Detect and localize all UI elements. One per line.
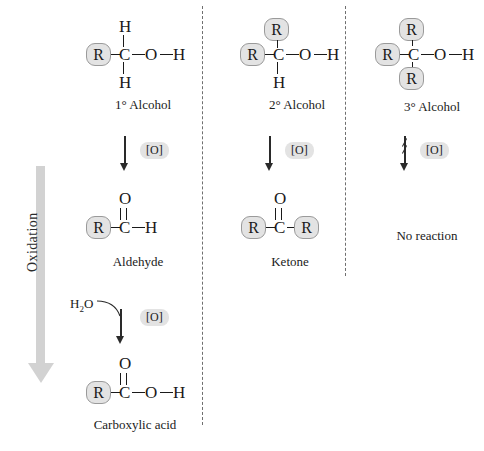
- group-r-top: R: [264, 18, 289, 41]
- atom-c-center: C: [407, 46, 420, 63]
- atom-o-top: O: [118, 190, 132, 207]
- diagram-canvas: Oxidation H R C O H H 1° Alcohol [O] O: [0, 0, 484, 451]
- arrow-head: [265, 163, 273, 171]
- atom-h-right: H: [144, 219, 158, 236]
- water-h: H: [70, 296, 79, 311]
- arrow-head: [400, 163, 408, 171]
- arrow-shaft: [124, 136, 126, 164]
- atom-o-top: O: [273, 190, 287, 207]
- caption-ketone: Ketone: [230, 254, 350, 270]
- reagent-badge-tertiary: [O]: [420, 142, 449, 159]
- atom-h-right: H: [172, 384, 186, 401]
- reagent-badge-secondary-1: [O]: [285, 142, 314, 159]
- atom-h-right: H: [461, 46, 475, 63]
- atom-c-center: C: [273, 219, 286, 236]
- reagent-badge-primary-2: [O]: [140, 309, 169, 326]
- structure-carboxylic-acid: O R C O H: [83, 355, 213, 411]
- atom-h-bottom: H: [118, 74, 132, 91]
- atom-o-top: O: [118, 355, 132, 372]
- atom-c-center: C: [118, 219, 131, 236]
- caption-primary-alcohol: 1° Alcohol: [83, 97, 203, 113]
- atom-r-label: R: [406, 71, 417, 87]
- group-r-right: R: [294, 216, 319, 239]
- arrow-shaft: [269, 136, 271, 164]
- group-r-left: R: [240, 43, 265, 66]
- atom-c-center: C: [118, 46, 131, 63]
- arrow-shaft: [120, 309, 122, 337]
- atom-r-label: R: [93, 385, 104, 401]
- caption-carboxylic-acid: Carboxylic acid: [70, 417, 200, 433]
- group-r-left: R: [241, 216, 266, 239]
- atom-r-label: R: [406, 22, 417, 38]
- group-r-left: R: [86, 43, 111, 66]
- atom-o: O: [298, 46, 312, 63]
- reagent-badge-primary-1: [O]: [140, 142, 169, 159]
- caption-aldehyde: Aldehyde: [83, 254, 193, 270]
- byproduct-water: H2O: [70, 296, 93, 314]
- group-r-top: R: [399, 18, 424, 41]
- arrow-head: [120, 163, 128, 171]
- group-r-bottom: R: [399, 67, 424, 90]
- oxidation-label: Oxidation: [25, 212, 41, 272]
- arrow-head: [116, 336, 124, 344]
- structure-primary-alcohol: H R C O H H: [83, 18, 203, 90]
- atom-h-right: H: [326, 46, 340, 63]
- water-o: O: [84, 296, 93, 311]
- atom-o-right: O: [144, 384, 158, 401]
- atom-r-label: R: [382, 47, 393, 63]
- oxidation-arrow-head: [28, 363, 54, 383]
- atom-r-label: R: [271, 22, 282, 38]
- atom-r-label: R: [93, 220, 104, 236]
- structure-tertiary-alcohol: R R C O H R: [372, 18, 484, 98]
- atom-h-right: H: [172, 46, 186, 63]
- structure-secondary-alcohol: R R C O H H: [237, 18, 357, 94]
- atom-c-center: C: [272, 46, 285, 63]
- atom-r-label: R: [93, 47, 104, 63]
- atom-c-center: C: [118, 384, 131, 401]
- atom-o: O: [433, 46, 447, 63]
- structure-ketone: O R C R: [230, 190, 350, 246]
- caption-no-reaction: No reaction: [370, 228, 484, 244]
- caption-secondary-alcohol: 2° Alcohol: [237, 97, 357, 113]
- group-r-left: R: [86, 216, 111, 239]
- group-r-left: R: [86, 381, 111, 404]
- caption-tertiary-alcohol: 3° Alcohol: [372, 99, 484, 115]
- atom-r-label: R: [247, 47, 258, 63]
- structure-aldehyde: O R C H: [83, 190, 203, 246]
- atom-o: O: [144, 46, 158, 63]
- atom-r-label: R: [248, 220, 259, 236]
- group-r-left: R: [375, 43, 400, 66]
- atom-h-top: H: [118, 18, 132, 35]
- atom-r-label: R: [301, 220, 312, 236]
- atom-h-bottom: H: [272, 74, 286, 91]
